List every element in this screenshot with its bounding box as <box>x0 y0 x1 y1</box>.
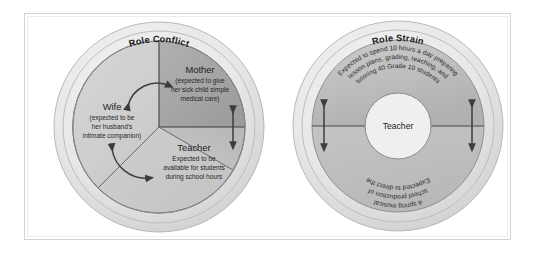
teacher-role: Teacher <box>177 142 210 153</box>
mother-detail-2: her sick child simple <box>171 86 230 94</box>
role-conflict-diagram: Role Conflict Mother (expected to give h… <box>52 20 272 234</box>
wife-detail-3: intimate companion) <box>83 132 142 140</box>
figure-canvas: Role Conflict Mother (expected to give h… <box>0 0 536 254</box>
mother-detail-3: medical care) <box>180 95 219 103</box>
teacher-detail-1: Expected to be <box>172 155 216 163</box>
wife-role: Wife <box>103 101 122 112</box>
role-strain-diagram: Teacher Role Strain Expected to spend 10… <box>292 20 504 234</box>
teacher-detail-3: during school hours <box>166 173 223 181</box>
mother-role: Mother <box>185 64 214 75</box>
teacher-detail-2: available for students <box>163 164 225 171</box>
mother-detail-1: (expected to give <box>175 77 225 85</box>
center-label: Teacher <box>383 121 414 131</box>
wife-detail-2: her husband's <box>92 123 133 130</box>
wife-detail-1: (expected to be <box>90 114 135 122</box>
